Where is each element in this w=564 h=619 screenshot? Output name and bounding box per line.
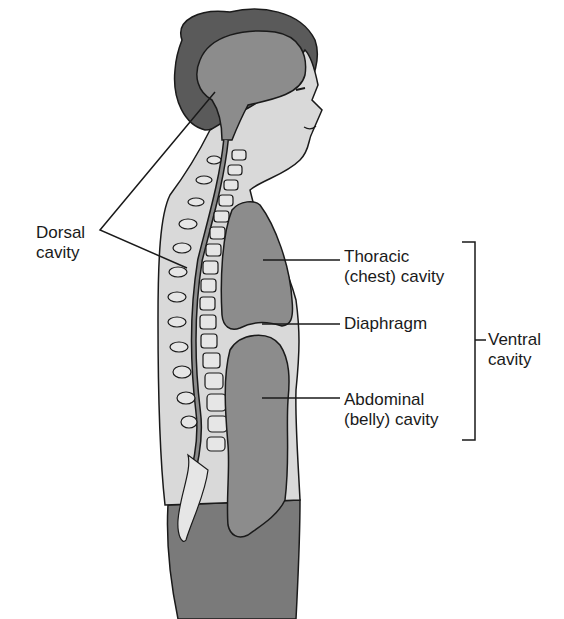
label-line: Abdominal bbox=[344, 390, 438, 410]
label-thoracic-cavity: Thoracic (chest) cavity bbox=[344, 247, 444, 287]
label-line: (belly) cavity bbox=[344, 410, 438, 430]
label-line: cavity bbox=[36, 243, 85, 263]
label-line: Diaphragm bbox=[344, 314, 427, 334]
label-ventral-cavity: Ventral cavity bbox=[488, 330, 541, 370]
label-line: Ventral bbox=[488, 330, 541, 350]
label-line: cavity bbox=[488, 350, 541, 370]
ventral-bracket bbox=[462, 242, 486, 440]
label-abdominal-cavity: Abdominal (belly) cavity bbox=[344, 390, 438, 430]
body-diagram bbox=[0, 0, 564, 619]
label-line: Thoracic bbox=[344, 247, 444, 267]
thoracic-cavity bbox=[221, 202, 292, 330]
label-line: Dorsal bbox=[36, 223, 85, 243]
label-line: (chest) cavity bbox=[344, 267, 444, 287]
label-diaphragm: Diaphragm bbox=[344, 314, 427, 334]
abdominal-cavity bbox=[225, 335, 289, 537]
label-dorsal-cavity: Dorsal cavity bbox=[36, 223, 85, 263]
